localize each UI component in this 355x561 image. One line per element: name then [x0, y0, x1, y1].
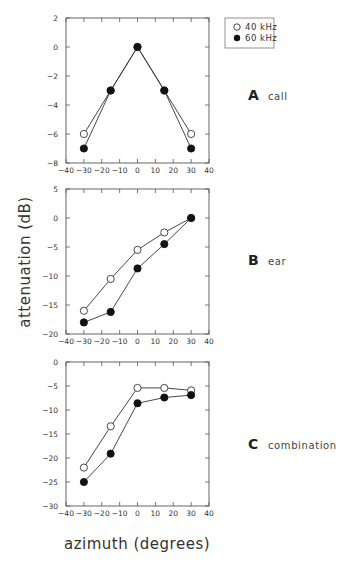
series-line: [84, 218, 191, 311]
x-tick-label: 10: [151, 166, 161, 175]
x-tick-label: −30: [76, 337, 92, 346]
series-line: [84, 395, 191, 482]
panel-letter-c: C: [248, 436, 258, 452]
filled-circle-marker: [107, 450, 114, 457]
filled-circle-marker: [188, 214, 195, 221]
x-tick-label: 40: [204, 337, 214, 346]
x-tick-label: −20: [94, 166, 110, 175]
plot-frame: [66, 362, 209, 506]
plot-a-call: −40−30−20−1001020304020−2−4−6−8: [47, 14, 214, 175]
x-tick-label: 10: [151, 509, 161, 518]
filled-circle-marker: [107, 308, 114, 315]
filled-circle-marker: [188, 145, 195, 152]
series-line: [84, 47, 191, 149]
x-tick-label: −30: [76, 509, 92, 518]
x-tick-label: −30: [76, 166, 92, 175]
open-circle-marker: [188, 130, 195, 137]
filled-circle-marker: [80, 319, 87, 326]
y-tick-label: −15: [42, 301, 58, 310]
legend: 40 kHz 60 kHz: [225, 18, 277, 48]
filled-circle-marker: [134, 265, 141, 272]
x-tick-label: −40: [58, 337, 74, 346]
x-tick-label: −10: [112, 337, 128, 346]
open-circle-marker: [80, 130, 87, 137]
x-tick-label: 20: [168, 337, 178, 346]
panel-label-c: C combination: [248, 436, 337, 452]
legend-label-60khz: 60 kHz: [245, 33, 277, 43]
y-tick-label: 5: [53, 185, 58, 194]
x-tick-label: 20: [168, 509, 178, 518]
open-circle-marker: [107, 275, 114, 282]
panel-name-c: combination: [268, 440, 337, 451]
panel-label-b: B ear: [248, 252, 286, 268]
series-line: [84, 47, 191, 134]
x-axis-title: azimuth (degrees): [64, 535, 210, 553]
filled-circle-marker: [134, 43, 141, 50]
y-tick-label: −20: [42, 330, 58, 339]
open-circle-marker: [161, 229, 168, 236]
open-circle-marker: [107, 423, 114, 430]
x-tick-label: 40: [204, 166, 214, 175]
x-tick-label: 20: [168, 166, 178, 175]
y-tick-label: 0: [53, 358, 58, 367]
panel-letter-b: B: [248, 252, 259, 268]
y-tick-label: 0: [53, 43, 58, 52]
y-tick-label: −5: [47, 382, 58, 391]
filled-circle-marker: [80, 145, 87, 152]
filled-circle-icon: [234, 35, 240, 41]
y-tick-label: −25: [42, 478, 58, 487]
x-tick-label: −10: [112, 509, 128, 518]
y-tick-label: −6: [47, 130, 58, 139]
filled-circle-marker: [80, 478, 87, 485]
y-tick-label: −15: [42, 430, 58, 439]
open-circle-marker: [161, 384, 168, 391]
filled-circle-marker: [134, 400, 141, 407]
filled-circle-marker: [188, 392, 195, 399]
x-tick-label: 30: [186, 509, 196, 518]
open-circle-marker: [134, 384, 141, 391]
open-circle-icon: [234, 24, 240, 30]
filled-circle-marker: [161, 241, 168, 248]
y-tick-label: −8: [47, 159, 58, 168]
y-tick-label: −10: [42, 272, 58, 281]
figure: attenuation (dB) azimuth (degrees) 40 kH…: [0, 0, 355, 561]
x-tick-label: −20: [94, 509, 110, 518]
open-circle-marker: [80, 464, 87, 471]
y-tick-label: −30: [42, 502, 58, 511]
x-tick-label: 10: [151, 337, 161, 346]
y-tick-label: −10: [42, 406, 58, 415]
y-tick-label: −4: [47, 101, 58, 110]
x-tick-label: 40: [204, 509, 214, 518]
x-tick-label: 0: [135, 509, 140, 518]
filled-circle-marker: [107, 87, 114, 94]
x-tick-label: −40: [58, 166, 74, 175]
y-tick-label: −20: [42, 454, 58, 463]
panel-name-a: call: [268, 91, 288, 102]
y-tick-label: −2: [47, 72, 58, 81]
panel-letter-a: A: [248, 87, 259, 103]
x-tick-label: −10: [112, 166, 128, 175]
x-tick-label: −40: [58, 509, 74, 518]
y-axis-title: attenuation (dB): [16, 196, 34, 327]
y-tick-label: 0: [53, 214, 58, 223]
x-tick-label: 30: [186, 337, 196, 346]
x-tick-label: 0: [135, 166, 140, 175]
plot-b-ear: −40−30−20−1001020304050−5−10−15−20: [42, 185, 214, 346]
x-tick-label: −20: [94, 337, 110, 346]
x-tick-label: 0: [135, 337, 140, 346]
panel-name-b: ear: [268, 256, 286, 267]
open-circle-marker: [80, 307, 87, 314]
x-tick-label: 30: [186, 166, 196, 175]
filled-circle-marker: [161, 87, 168, 94]
filled-circle-marker: [161, 394, 168, 401]
legend-label-40khz: 40 kHz: [245, 22, 277, 32]
y-tick-label: −5: [47, 243, 58, 252]
y-tick-label: 2: [53, 14, 58, 23]
panel-label-a: A call: [248, 87, 288, 103]
plot-c-combination: −40−30−20−100102030400−5−10−15−20−25−30: [42, 358, 214, 518]
open-circle-marker: [134, 246, 141, 253]
